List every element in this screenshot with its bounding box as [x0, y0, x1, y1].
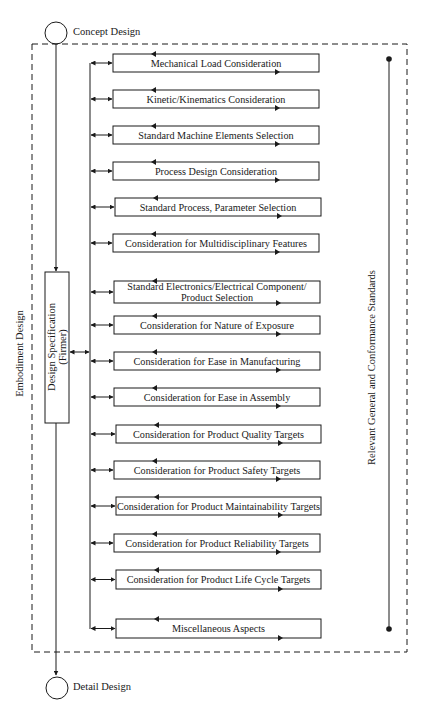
design-specification-line1: Design Specification: [46, 284, 57, 410]
standards-line-top-dot: [386, 56, 392, 62]
consideration-box: [113, 54, 319, 72]
consideration-box: [114, 352, 320, 370]
consideration-box: [115, 198, 321, 216]
consideration-box: [113, 90, 319, 108]
consideration-box: [116, 425, 321, 443]
concept-design-label: Concept Design: [73, 26, 140, 37]
consideration-box: [114, 461, 320, 479]
consideration-box: [114, 281, 320, 303]
consideration-box: [114, 388, 320, 406]
embodiment-design-label: Embodiment Design: [14, 304, 25, 404]
detail-design-label: Detail Design: [73, 681, 131, 692]
design-specification-line2: (Firmer): [57, 284, 68, 410]
concept-design-node: [45, 22, 67, 44]
standards-label: Relevant General and Conformance Standar…: [366, 268, 377, 468]
consideration-box: [116, 619, 321, 638]
design-specification-label: Design Specification (Firmer): [46, 284, 68, 410]
consideration-box: [113, 126, 319, 144]
standards-line-bottom-dot: [386, 626, 392, 632]
detail-design-node: [46, 677, 68, 699]
consideration-box: [113, 234, 319, 252]
consideration-box: [114, 316, 320, 334]
consideration-box: [114, 534, 320, 552]
consideration-box: [116, 570, 321, 589]
consideration-box: [116, 497, 321, 515]
consideration-box: [113, 162, 319, 180]
